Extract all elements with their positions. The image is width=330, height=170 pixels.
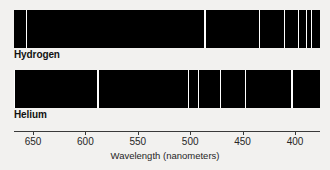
- axis-title: Wavelength (nanometers): [0, 150, 330, 162]
- axis-tick-650: [33, 131, 34, 135]
- emission-line-hydrogen-434nm: [259, 10, 260, 48]
- axis-tick-label-400: 400: [278, 136, 312, 148]
- axis-tick-600: [85, 131, 86, 135]
- spectrum-label-helium: Helium: [14, 109, 47, 121]
- emission-line-hydrogen-410nm: [284, 10, 285, 48]
- axis-tick-label-450: 450: [226, 136, 260, 148]
- spectrum-band-helium: [14, 70, 320, 108]
- emission-line-helium-588nm: [97, 70, 98, 108]
- spectrum-band-hydrogen: [14, 10, 320, 48]
- emission-line-hydrogen-486nm: [204, 10, 205, 48]
- emission-line-helium-403nm: [291, 70, 292, 108]
- axis-tick-400: [295, 131, 296, 135]
- wavelength-axis-line: [14, 131, 320, 132]
- emission-spectra-figure: Hydrogen Helium 650600550500450400 Wavel…: [0, 0, 330, 170]
- emission-line-hydrogen-656nm: [26, 10, 27, 48]
- emission-line-helium-502nm: [188, 70, 189, 108]
- axis-tick-label-550: 550: [121, 136, 155, 148]
- axis-tick-label-500: 500: [173, 136, 207, 148]
- emission-line-helium-447nm: [245, 70, 246, 108]
- emission-line-hydrogen-389nm: [306, 10, 307, 48]
- axis-tick-550: [138, 131, 139, 135]
- emission-line-hydrogen-397nm: [298, 10, 299, 48]
- emission-line-helium-492nm: [198, 70, 199, 108]
- axis-tick-500: [190, 131, 191, 135]
- axis-tick-label-650: 650: [16, 136, 50, 148]
- axis-tick-450: [243, 131, 244, 135]
- emission-line-helium-668nm: [14, 70, 15, 108]
- spectrum-label-hydrogen: Hydrogen: [14, 49, 60, 61]
- emission-line-hydrogen-384nm: [311, 10, 312, 48]
- emission-line-helium-471nm: [220, 70, 221, 108]
- axis-tick-label-600: 600: [68, 136, 102, 148]
